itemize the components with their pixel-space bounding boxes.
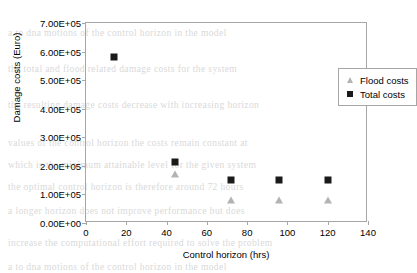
data-point-flood-costs xyxy=(275,197,283,204)
legend-item-flood-costs[interactable]: Flood costs xyxy=(343,73,409,87)
x-axis-tick-mark xyxy=(287,221,288,225)
y-axis-tick-mark xyxy=(82,137,86,138)
data-point-total-costs xyxy=(171,158,178,165)
y-axis-tick-mark xyxy=(82,109,86,110)
data-point-total-costs xyxy=(276,177,283,184)
y-axis-tick-label: 7.00E+05 xyxy=(40,18,81,29)
x-axis-tick-label: 140 xyxy=(360,227,376,238)
data-point-total-costs xyxy=(111,54,118,61)
y-axis-tick-mark xyxy=(82,194,86,195)
y-axis-tick-label: 0.00E+00 xyxy=(40,218,81,229)
x-axis-tick-mark xyxy=(207,221,208,225)
x-axis-tick-label: 120 xyxy=(320,227,336,238)
data-point-total-costs xyxy=(324,177,331,184)
data-point-flood-costs xyxy=(171,171,179,178)
x-axis-tick-mark xyxy=(126,221,127,225)
x-axis-tick-label: 0 xyxy=(83,227,88,238)
y-axis-tick-label: 5.00E+05 xyxy=(40,75,81,86)
data-point-flood-costs xyxy=(227,197,235,204)
x-axis-tick-mark xyxy=(167,221,168,225)
x-axis-tick-label: 40 xyxy=(161,227,172,238)
legend-label: Flood costs xyxy=(360,75,409,86)
square-marker-icon xyxy=(343,91,357,97)
y-axis-tick-mark xyxy=(82,52,86,53)
x-axis-tick-mark xyxy=(247,221,248,225)
legend-item-total-costs[interactable]: Total costs xyxy=(343,87,409,101)
y-axis-tick-label: 1.00E+05 xyxy=(40,189,81,200)
y-axis-tick-label: 2.00E+05 xyxy=(40,160,81,171)
y-axis-tick-mark xyxy=(82,166,86,167)
x-axis-title: Control horizon (hrs) xyxy=(85,249,367,260)
x-axis-tick-label: 100 xyxy=(279,227,295,238)
x-axis-tick-mark xyxy=(368,221,369,225)
data-point-total-costs xyxy=(228,177,235,184)
x-axis-tick-mark xyxy=(328,221,329,225)
x-axis-tick-label: 60 xyxy=(202,227,213,238)
plot-area: 0.00E+001.00E+052.00E+053.00E+054.00E+05… xyxy=(85,22,367,222)
data-point-flood-costs xyxy=(324,197,332,204)
x-axis-tick-mark xyxy=(86,221,87,225)
y-axis-tick-label: 6.00E+05 xyxy=(40,46,81,57)
triangle-marker-icon xyxy=(343,77,357,83)
x-axis-tick-label: 20 xyxy=(121,227,132,238)
y-axis-tick-mark xyxy=(82,23,86,24)
y-axis-title: Damage costs (Euro) xyxy=(11,0,22,158)
y-axis-tick-label: 3.00E+05 xyxy=(40,132,81,143)
legend-label: Total costs xyxy=(360,89,405,100)
chart-legend: Flood costsTotal costs xyxy=(338,68,417,106)
x-axis-tick-label: 80 xyxy=(242,227,253,238)
y-axis-tick-label: 4.00E+05 xyxy=(40,103,81,114)
y-axis-tick-mark xyxy=(82,80,86,81)
